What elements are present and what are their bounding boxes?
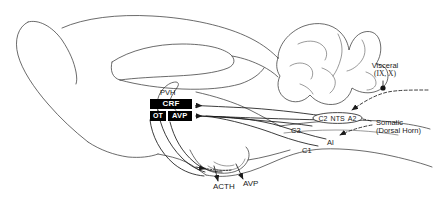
avp-output-label: AVP xyxy=(243,180,258,189)
somatic-afferent-dashed xyxy=(340,125,372,135)
visceral-afferent-dashed xyxy=(352,90,428,110)
acth-output-arrow xyxy=(214,166,218,181)
c1-label: C1 xyxy=(302,147,312,155)
somatic-afferent-label: Somatic (Dorsal Horn) xyxy=(376,119,436,136)
nts-cell-group: C2 NTS A2 xyxy=(312,112,363,124)
label-a2: A2 xyxy=(348,115,357,122)
magnocellular-descending-secondary xyxy=(150,120,204,176)
ot-avp-row: OT AVP xyxy=(150,111,192,121)
label-c2: C2 xyxy=(318,115,327,122)
ot-box: OT xyxy=(150,111,166,121)
pvh-box-stack: CRF OT AVP xyxy=(150,99,192,121)
somatic-label-line2: (Dorsal Horn) xyxy=(376,127,436,135)
magnocellular-descending-to-posterior-pituitary xyxy=(170,122,222,172)
pvh-label: PVH xyxy=(160,89,175,97)
visceral-afferent-label: Visceral (IX, X) xyxy=(358,62,412,79)
avp-output-arrow xyxy=(236,164,243,179)
a1-label: Al xyxy=(327,139,334,147)
avp-box: AVP xyxy=(168,111,193,121)
nts-oval-labels: C2 NTS A2 xyxy=(312,112,363,124)
c3-label: C3 xyxy=(291,127,301,135)
hpa-axis-diagram: C2 NTS A2 CRF OT AVP PVH C3 Al C1 ACTH A… xyxy=(0,0,436,202)
crf-box: CRF xyxy=(150,99,192,109)
projection-pathway-layer xyxy=(0,0,436,202)
ascending-projection-to-crf xyxy=(196,106,330,118)
visceral-label-line2: (IX, X) xyxy=(358,70,412,78)
acth-output-label: ACTH xyxy=(213,183,235,192)
label-nts: NTS xyxy=(331,115,345,122)
